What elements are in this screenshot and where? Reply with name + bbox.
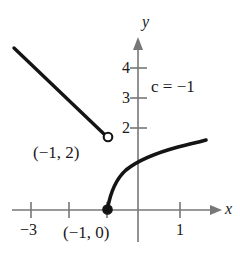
line-segment-series — [14, 48, 112, 141]
x-tick-label-1: 1 — [176, 222, 184, 238]
x-axis-label: x — [225, 201, 232, 217]
open-point-annotation: (−1, 2) — [33, 144, 79, 161]
closed-point-annotation: (−1, 0) — [63, 224, 109, 241]
y-axis-label: y — [142, 14, 149, 30]
y-axis — [130, 37, 147, 242]
x-axis — [12, 202, 222, 218]
x-axis-arrowhead — [210, 205, 222, 215]
graph-figure: 4 3 2 −3 1 x y c = −1 (−1, 2) (−1, 0) — [0, 0, 240, 255]
y-tick-label-3: 3 — [122, 90, 130, 106]
y-axis-arrowhead — [133, 37, 143, 50]
y-tick-label-2: 2 — [122, 120, 130, 136]
open-circle-endpoint — [104, 133, 113, 142]
y-tick-label-4: 4 — [122, 60, 130, 76]
square-root-curve — [108, 140, 207, 209]
x-tick-label--3: −3 — [20, 222, 37, 238]
line-segment — [14, 48, 104, 134]
square-root-curve-series — [103, 140, 206, 214]
parameter-annotation: c = −1 — [151, 78, 195, 95]
filled-circle-endpoint — [103, 205, 112, 214]
plot-canvas — [0, 0, 240, 255]
